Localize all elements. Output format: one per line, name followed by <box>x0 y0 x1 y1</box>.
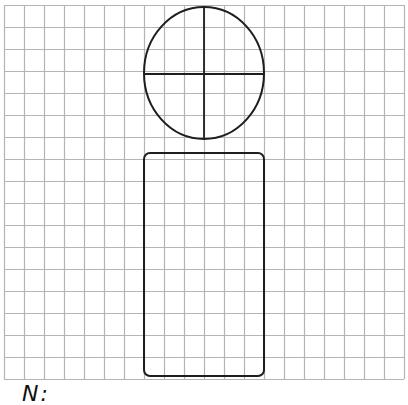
caption-text: N: <box>22 383 50 405</box>
